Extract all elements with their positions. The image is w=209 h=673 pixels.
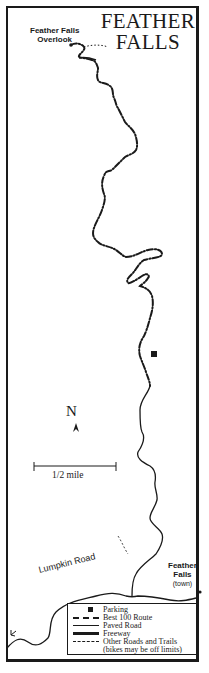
town-label-line-2: Falls bbox=[168, 570, 197, 579]
other-trail bbox=[118, 536, 128, 554]
town-label-line-1: Feather bbox=[168, 561, 197, 570]
dash-dot-line-icon bbox=[71, 614, 99, 622]
parking-marker bbox=[151, 351, 157, 357]
scale-label: 1/2 mile bbox=[52, 470, 83, 480]
parking-icon bbox=[71, 606, 99, 614]
town-marker bbox=[198, 590, 201, 593]
best-100-route bbox=[71, 44, 162, 386]
legend-item-paved-road: Paved Road bbox=[71, 622, 193, 630]
north-label: N bbox=[66, 403, 77, 420]
overlook-label-line-1: Feather Falls bbox=[30, 26, 79, 35]
map-title: FEATHER FALLS bbox=[101, 11, 195, 53]
north-arrow-icon bbox=[73, 423, 79, 432]
legend-note: (bikes may be off limits) bbox=[71, 646, 193, 654]
dashed-line-icon bbox=[71, 638, 99, 646]
thin-line-icon bbox=[71, 622, 99, 630]
overlook-label-line-2: Overlook bbox=[30, 35, 79, 44]
thick-line-icon bbox=[71, 630, 99, 638]
town-label-line-3: (town) bbox=[168, 579, 197, 588]
title-line-1: FEATHER bbox=[101, 11, 195, 32]
title-line-2: FALLS bbox=[101, 32, 195, 53]
paved-road-access bbox=[132, 386, 163, 596]
direction-arrow-icon bbox=[11, 630, 16, 636]
overlook-label: Feather Falls Overlook bbox=[30, 26, 79, 44]
town-label: Feather Falls (town) bbox=[168, 561, 197, 588]
map-legend: Parking Best 100 Route Paved Road Freewa… bbox=[67, 603, 197, 655]
